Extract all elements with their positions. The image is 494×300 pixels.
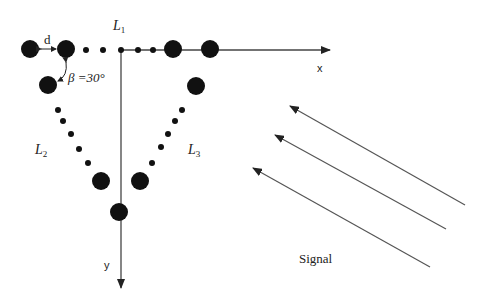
signal-arrow <box>253 168 430 267</box>
angle-arc-icon <box>58 62 66 81</box>
small-element <box>100 47 106 53</box>
x-axis-label: x <box>317 62 323 74</box>
label-L3: L3 <box>187 142 201 159</box>
array-geometry-diagram: d β =30° L1 L2 L3 x y Signal <box>0 0 494 300</box>
spacing-label: d <box>44 32 51 47</box>
small-element <box>118 47 124 53</box>
small-element <box>135 47 141 53</box>
small-element <box>172 118 178 124</box>
small-element <box>60 118 66 124</box>
signal-label: Signal <box>299 251 333 266</box>
large-element <box>164 40 182 58</box>
signal-arrows <box>253 106 465 267</box>
large-element <box>92 172 110 190</box>
large-element <box>57 40 75 58</box>
large-element <box>187 77 205 95</box>
large-sensor-elements <box>21 40 219 221</box>
small-element <box>179 107 185 113</box>
large-element <box>131 172 149 190</box>
label-L1: L1 <box>112 18 125 35</box>
angle-label: β =30° <box>67 70 105 85</box>
large-element <box>110 203 128 221</box>
small-element <box>83 47 89 53</box>
signal-arrow <box>275 135 446 229</box>
small-element <box>149 160 155 166</box>
large-element <box>21 40 39 58</box>
signal-arrow <box>290 106 465 205</box>
small-element <box>68 131 74 137</box>
small-element <box>55 107 61 113</box>
large-element <box>39 76 57 94</box>
small-element <box>76 146 82 152</box>
y-axis-label: y <box>104 259 110 271</box>
small-sensor-elements <box>55 47 185 166</box>
large-element <box>201 40 219 58</box>
small-element <box>150 47 156 53</box>
small-element <box>85 160 91 166</box>
small-element <box>165 131 171 137</box>
small-element <box>158 144 164 150</box>
label-L2: L2 <box>34 142 47 159</box>
